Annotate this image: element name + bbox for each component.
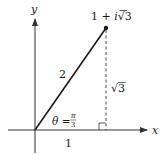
angle-label: θ = π 3: [52, 112, 76, 129]
complex-plane-diagram: y x 1 + i√3 2 √3 θ = π 3 1: [0, 0, 168, 155]
x-axis-label: x: [152, 124, 159, 137]
angle-denominator: 3: [71, 121, 75, 129]
angle-numerator: π: [70, 112, 76, 120]
svg-text:√3: √3: [111, 82, 125, 95]
complex-point-marker: [104, 26, 108, 30]
point-label: 1 + i√3: [91, 10, 132, 23]
imaginary-leg-label: √3: [111, 82, 126, 95]
svg-text:θ =: θ =: [52, 115, 70, 127]
real-part-label: 1: [65, 137, 72, 150]
svg-text:1 + i√3: 1 + i√3: [91, 10, 132, 23]
right-angle-marker: [99, 123, 106, 130]
y-axis-label: y: [30, 3, 38, 16]
modulus-label: 2: [59, 68, 66, 81]
